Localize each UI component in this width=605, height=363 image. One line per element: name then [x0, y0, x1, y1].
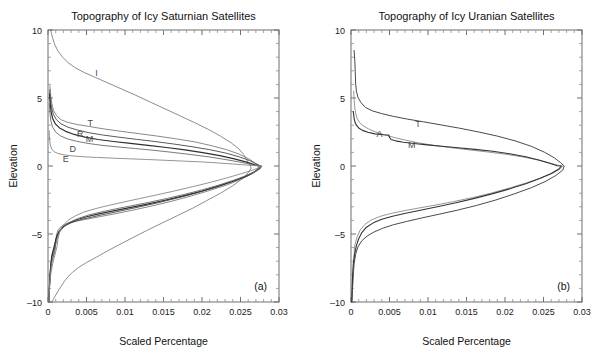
curve-annotation-D: D	[69, 144, 76, 154]
chart-panel-saturnian: 00.0050.010.0150.020.0250.03–10–50510ITR…	[0, 0, 302, 363]
y-axis-title: Elevation	[310, 144, 322, 187]
panel-label: (a)	[254, 280, 267, 292]
x-tick-label: 0.02	[193, 307, 211, 317]
x-tick-label: 0.01	[419, 307, 437, 317]
y-tick-label: 5	[340, 94, 345, 104]
x-tick-label: 0.03	[573, 307, 591, 317]
curve-E	[49, 131, 262, 302]
figure-root: 00.0050.010.0150.020.0250.03–10–50510ITR…	[0, 0, 605, 363]
saturnian-plot-svg: 00.0050.010.0150.020.0250.03–10–50510ITR…	[0, 0, 302, 363]
curve-annotation-E: E	[63, 154, 69, 164]
y-tick-label: 5	[37, 94, 42, 104]
y-axis-title: Elevation	[7, 144, 19, 187]
curve-A	[352, 91, 563, 302]
x-tick-label: 0	[45, 307, 50, 317]
curve-M	[352, 112, 561, 302]
panel-title: Topography of Icy Uranian Satellites	[378, 10, 555, 22]
x-tick-label: 0.03	[270, 307, 288, 317]
y-tick-label: –5	[335, 230, 345, 240]
x-tick-label: 0.01	[116, 307, 134, 317]
y-tick-label: –10	[330, 298, 345, 308]
y-tick-label: 0	[37, 162, 42, 172]
curve-annotation-T: T	[88, 118, 94, 128]
x-tick-label: 0	[348, 307, 353, 317]
curve-annotation-R: R	[77, 129, 84, 139]
curve-I	[51, 30, 252, 302]
x-tick-label: 0.015	[455, 307, 478, 317]
curve-annotation-M: M	[408, 140, 416, 150]
curve-annotation-M: M	[86, 134, 94, 144]
curve-annotation-I: I	[95, 68, 98, 78]
x-axis-title: Scaled Percentage	[119, 335, 208, 347]
x-tick-label: 0.025	[229, 307, 252, 317]
curve-annotation-A: A	[376, 129, 382, 139]
curve-annotation-T: T	[415, 119, 421, 129]
plot-frame	[48, 30, 279, 302]
x-tick-label: 0.005	[75, 307, 98, 317]
curve-R	[49, 90, 261, 302]
y-tick-label: 10	[32, 26, 42, 36]
uranian-plot-svg: 00.0050.010.0150.020.0250.03–10–50510TAM…	[303, 0, 605, 363]
x-tick-label: 0.015	[152, 307, 175, 317]
panel-title: Topography of Icy Saturnian Satellites	[71, 10, 256, 22]
x-tick-label: 0.02	[496, 307, 514, 317]
y-tick-label: 0	[340, 162, 345, 172]
y-tick-label: –10	[27, 298, 42, 308]
x-axis-title: Scaled Percentage	[422, 335, 511, 347]
x-tick-label: 0.025	[532, 307, 555, 317]
curve-T	[49, 86, 259, 302]
x-tick-label: 0.005	[378, 307, 401, 317]
chart-panel-uranian: 00.0050.010.0150.020.0250.03–10–50510TAM…	[303, 0, 605, 363]
y-tick-label: 10	[335, 26, 345, 36]
curve-T	[352, 50, 565, 302]
plot-frame	[351, 30, 582, 302]
panel-label: (b)	[557, 280, 570, 292]
y-tick-label: –5	[32, 230, 42, 240]
